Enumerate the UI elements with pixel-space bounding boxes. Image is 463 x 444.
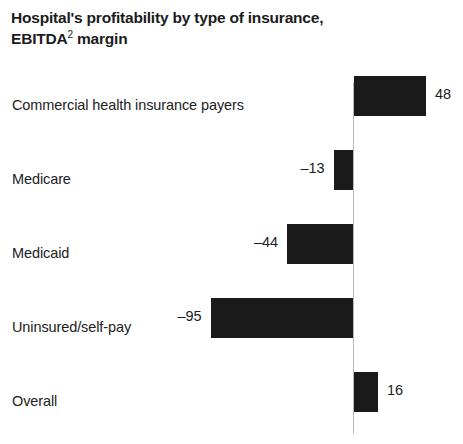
chart-row: Commercial health insurance payers48: [0, 72, 463, 146]
chart-title-line-1: Hospital's profitability by type of insu…: [11, 7, 441, 28]
plot-area: Commercial health insurance payers48Medi…: [0, 72, 463, 444]
bar-value-label: 48: [435, 86, 451, 102]
bar: [334, 150, 354, 190]
chart-row: Uninsured/self-pay–95: [0, 294, 463, 368]
bar-value-label: –44: [254, 234, 278, 250]
category-label: Medicaid: [12, 245, 69, 261]
category-label: Overall: [12, 393, 57, 409]
chart-row: Medicaid–44: [0, 220, 463, 294]
chart-page: Hospital's profitability by type of insu…: [0, 0, 463, 444]
bar-value-label: –95: [178, 308, 202, 324]
bar: [211, 298, 354, 338]
chart-title-ebitda: EBITDA: [11, 30, 68, 47]
chart-row: Overall16: [0, 368, 463, 442]
category-label: Commercial health insurance payers: [12, 97, 244, 113]
bar: [287, 224, 353, 264]
bar-value-label: 16: [387, 382, 403, 398]
bar-value-label: –13: [301, 160, 325, 176]
chart-title-margin: margin: [73, 30, 128, 47]
chart-title-line-2: EBITDA2 margin: [11, 28, 441, 49]
category-label: Medicare: [12, 171, 71, 187]
bar: [354, 76, 426, 116]
bar: [354, 372, 378, 412]
chart-row: Medicare–13: [0, 146, 463, 220]
category-label: Uninsured/self-pay: [12, 319, 131, 335]
chart-title: Hospital's profitability by type of insu…: [11, 7, 441, 49]
